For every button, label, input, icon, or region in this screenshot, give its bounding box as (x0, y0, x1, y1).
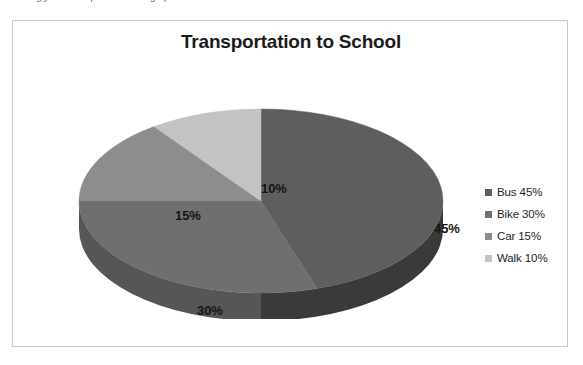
legend-label-walk: Walk 10% (497, 252, 548, 264)
chart-title: Transportation to School (13, 31, 569, 53)
legend-swatch-car-icon (485, 233, 492, 240)
legend-swatch-walk-icon (485, 255, 492, 262)
clipped-top-text: accordingly. An example of a circle grap… (0, 0, 583, 5)
legend-label-bike: Bike 30% (497, 208, 545, 220)
pie-chart-svg (61, 79, 461, 319)
legend-swatch-bus-icon (485, 189, 492, 196)
legend-label-bus: Bus 45% (497, 186, 542, 198)
legend-item-car[interactable]: Car 15% (485, 225, 580, 246)
pie-label-bike: 30% (197, 303, 223, 318)
pie-chart-plot-area: 45% 30% 15% 10% (61, 79, 461, 319)
legend-item-bus[interactable]: Bus 45% (485, 181, 580, 202)
legend-label-car: Car 15% (497, 230, 541, 242)
legend-item-bike[interactable]: Bike 30% (485, 203, 580, 224)
chart-frame: Transportation to School (12, 20, 568, 347)
legend-item-walk[interactable]: Walk 10% (485, 247, 580, 268)
pie-label-bus: 45% (434, 221, 460, 236)
pie-label-walk: 10% (261, 181, 287, 196)
chart-legend: Bus 45% Bike 30% Car 15% Walk 10% (485, 181, 580, 269)
pie-label-car: 15% (175, 208, 201, 223)
legend-swatch-bike-icon (485, 211, 492, 218)
